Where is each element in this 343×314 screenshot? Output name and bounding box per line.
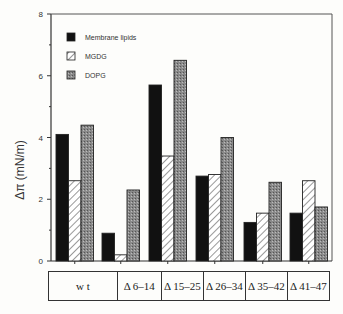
legend-label: Membrane lipids	[85, 34, 137, 42]
bar	[269, 182, 282, 261]
bar	[290, 213, 303, 261]
bar	[127, 190, 140, 261]
category-cell: Δ 6–14	[117, 272, 161, 300]
bar	[209, 175, 222, 261]
bar	[196, 176, 209, 261]
y-tick-label: 6	[39, 72, 44, 81]
y-axis-label: Δπ (mN/m)	[13, 140, 27, 200]
category-cell: w t	[49, 272, 117, 300]
legend-label: DOPG	[85, 72, 106, 79]
bar-chart: 02468 Membrane lipidsMGDGDOPG Δπ (mN/m)	[0, 0, 343, 314]
y-tick-label: 4	[39, 134, 44, 143]
bar	[81, 125, 94, 261]
bar	[315, 207, 328, 261]
bar	[56, 134, 69, 261]
y-tick-label: 0	[39, 257, 44, 266]
y-axis: 02468	[39, 10, 51, 266]
bar	[244, 222, 257, 261]
y-tick-label: 8	[39, 10, 44, 19]
bar	[257, 213, 270, 261]
bars	[56, 60, 328, 264]
bar	[102, 233, 115, 261]
bar	[303, 181, 316, 261]
bar	[221, 138, 234, 262]
category-cell: Δ 15–25	[161, 272, 203, 300]
category-cell: Δ 26–34	[203, 272, 245, 300]
bar	[162, 156, 175, 261]
category-table: w t Δ 6–14 Δ 15–25 Δ 26–34 Δ 35–42 Δ 41–…	[48, 271, 330, 301]
legend-swatch	[67, 52, 75, 60]
legend: Membrane lipidsMGDGDOPG	[67, 33, 137, 79]
bar	[69, 181, 82, 261]
y-tick-label: 2	[39, 195, 44, 204]
legend-swatch	[67, 33, 75, 41]
legend-swatch	[67, 71, 75, 79]
category-cell: Δ 41–47	[287, 272, 329, 300]
bar	[174, 60, 187, 261]
bar	[149, 85, 162, 261]
category-cell: Δ 35–42	[245, 272, 287, 300]
legend-label: MGDG	[85, 53, 107, 60]
bar	[115, 255, 128, 261]
